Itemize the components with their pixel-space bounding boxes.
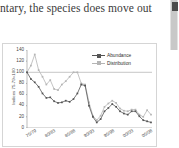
y-tick-label: 120 (16, 59, 24, 64)
legend-marker-icon (97, 54, 101, 58)
legend-line-swatch (92, 63, 105, 64)
legend-marker-icon (97, 61, 101, 65)
legend-label: Distribution (107, 61, 131, 66)
document-text-fragment: ntary, the species does move out (0, 2, 160, 20)
y-tick-label: 140 (16, 48, 24, 53)
x-axis-ticks: 75/7980/8385/8890/9395/9800/0305/08 (26, 130, 152, 148)
y-tick-label: 20 (19, 115, 24, 120)
x-tick-label: 95/98 (103, 128, 115, 138)
legend-item-distribution: Distribution (92, 60, 154, 67)
chart-panel: Indices 75-79=100 140120100806040200 Abu… (2, 43, 157, 147)
legend-line-swatch (92, 55, 105, 56)
x-tick-label: 80/83 (44, 128, 56, 138)
x-tick-label: 90/93 (83, 128, 95, 138)
vertical-scrollbar[interactable] (171, 0, 179, 148)
x-tick-label: 00/03 (122, 128, 134, 138)
chart-legend: AbundanceDistribution (92, 52, 154, 68)
y-tick-label: 100 (16, 70, 24, 75)
y-tick-label: 40 (19, 103, 24, 108)
x-tick-label: 85/88 (64, 128, 76, 138)
x-tick-label: 75/79 (25, 128, 37, 138)
y-tick-label: 0 (21, 126, 24, 131)
scrollbar-thumb[interactable] (172, 2, 178, 11)
series-abundance (26, 71, 152, 123)
y-tick-label: 80 (19, 81, 24, 86)
x-tick-label: 05/08 (141, 128, 153, 138)
legend-item-abundance: Abundance (92, 52, 154, 59)
legend-label: Abundance (107, 53, 131, 58)
y-axis-ticks: 140120100806040200 (11, 50, 24, 128)
y-tick-label: 60 (19, 92, 24, 97)
